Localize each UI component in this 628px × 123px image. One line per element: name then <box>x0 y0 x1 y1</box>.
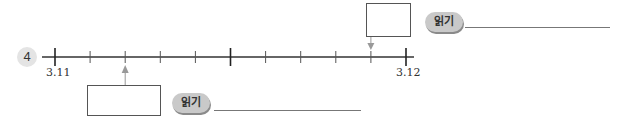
lower-read-badge: 읽기 <box>172 93 210 113</box>
lower-answer-box[interactable] <box>87 85 161 116</box>
upper-read-badge: 읽기 <box>425 12 463 32</box>
lower-answer-line[interactable] <box>214 110 361 111</box>
upper-answer-box[interactable] <box>366 3 411 37</box>
start-tick-label: 3.11 <box>46 66 71 79</box>
upper-marker-arrow-icon <box>367 37 374 50</box>
end-tick-label: 3.12 <box>396 66 421 79</box>
lower-marker-arrow-icon <box>122 65 129 85</box>
upper-answer-line[interactable] <box>465 27 610 28</box>
